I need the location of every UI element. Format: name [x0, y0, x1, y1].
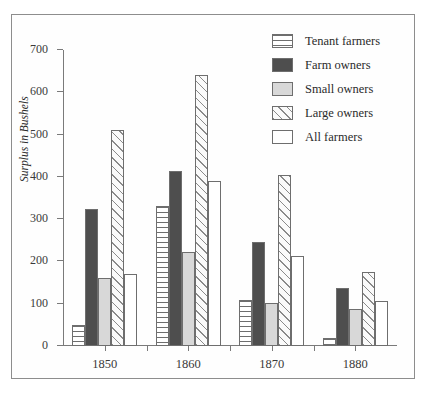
bar [111, 130, 124, 347]
bar [156, 206, 169, 346]
x-tick-label: 1850 [92, 356, 117, 372]
y-tick-label: 0 [42, 337, 48, 353]
legend-label: Large owners [305, 106, 373, 120]
legend-item: Large owners [272, 101, 380, 125]
y-tick-label: 700 [30, 41, 48, 57]
y-tick: 0 [57, 345, 63, 346]
y-tick-label: 600 [30, 83, 48, 99]
legend-swatch [272, 130, 293, 144]
bar [85, 209, 98, 346]
bar [252, 242, 265, 346]
x-tick-label: 1880 [343, 356, 368, 372]
legend-label: Tenant farmers [305, 34, 380, 48]
legend-label: All farmers [305, 130, 362, 144]
y-tick: 200 [57, 260, 63, 261]
y-tick: 600 [57, 91, 63, 92]
legend-item: Small owners [272, 77, 380, 101]
bar [169, 171, 182, 346]
bar [182, 252, 195, 346]
legend-item: All farmers [272, 125, 380, 149]
y-tick: 700 [57, 49, 63, 50]
bar [336, 288, 349, 346]
legend-swatch [272, 82, 293, 96]
y-tick-label: 400 [30, 168, 48, 184]
x-tick [188, 346, 189, 351]
legend-item: Tenant farmers [272, 29, 380, 53]
y-tick-label: 200 [30, 252, 48, 268]
bar [208, 181, 221, 346]
x-tick [272, 346, 273, 351]
x-tick-separator [230, 346, 231, 351]
x-tick [105, 346, 106, 351]
x-tick-separator [314, 346, 315, 351]
legend-swatch [272, 58, 293, 72]
bar [239, 300, 252, 346]
legend-swatch [272, 34, 293, 48]
bar [375, 301, 388, 346]
bar [362, 272, 375, 346]
bar [195, 75, 208, 346]
bar [124, 274, 137, 346]
y-axis-line [63, 50, 64, 346]
y-tick: 300 [57, 218, 63, 219]
bar [265, 303, 278, 346]
y-tick: 500 [57, 134, 63, 135]
y-tick-label: 300 [30, 210, 48, 226]
x-tick-label: 1870 [259, 356, 284, 372]
legend-label: Small owners [305, 82, 373, 96]
y-axis-title: Surplus in Bushels [18, 96, 30, 182]
x-tick-separator [147, 346, 148, 351]
chart-legend: Tenant farmersFarm ownersSmall ownersLar… [272, 29, 380, 149]
y-tick: 400 [57, 176, 63, 177]
bar [98, 278, 111, 346]
y-tick-label: 500 [30, 126, 48, 142]
legend-item: Farm owners [272, 53, 380, 77]
x-tick-label: 1860 [176, 356, 201, 372]
bar [323, 338, 336, 346]
bar [349, 309, 362, 346]
bar [291, 256, 304, 346]
x-tick [355, 346, 356, 351]
y-tick-label: 100 [30, 295, 48, 311]
chart-figure: Surplus in Bushels 010020030040050060070… [0, 0, 426, 393]
bar [278, 175, 291, 346]
y-tick: 100 [57, 303, 63, 304]
legend-label: Farm owners [305, 58, 371, 72]
legend-swatch [272, 106, 293, 120]
bar [72, 325, 85, 346]
